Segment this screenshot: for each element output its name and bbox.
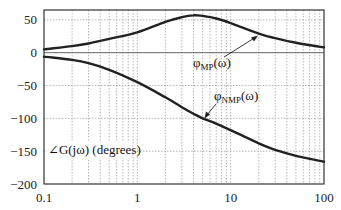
bode-phase-chart: 500−50−100−150−200 0.1110100 ∠G(jω) (deg… <box>0 0 341 210</box>
x-tick-label: 1 <box>134 190 141 205</box>
nmp-annotation: φNMP(ω) <box>205 88 259 119</box>
y-tick-label: −50 <box>17 78 37 93</box>
x-axis-ticks: 0.1110100 <box>36 190 334 205</box>
y-tick-label: −100 <box>10 111 37 126</box>
x-tick-label: 0.1 <box>36 190 52 205</box>
mp-curve-label: φMP(ω) <box>193 55 231 72</box>
y-tick-label: −150 <box>10 144 37 159</box>
curves <box>44 15 324 162</box>
y-axis-label: ∠G(jω) (degrees) <box>48 142 141 157</box>
nmp-curve-label: φNMP(ω) <box>214 88 258 105</box>
mp-phase-curve <box>44 15 324 49</box>
y-axis-ticks: 500−50−100−150−200 <box>10 12 37 191</box>
y-tick-label: 0 <box>31 45 38 60</box>
y-tick-label: −200 <box>10 177 37 192</box>
y-tick-label: 50 <box>24 12 37 27</box>
x-tick-label: 10 <box>224 190 237 205</box>
x-tick-label: 100 <box>314 190 334 205</box>
